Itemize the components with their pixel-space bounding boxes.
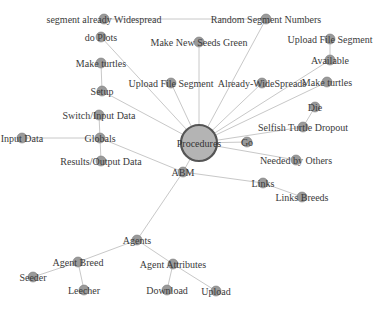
node-label: Upload — [201, 286, 230, 297]
node-label: Seeder — [19, 272, 47, 283]
node-label: Globals — [84, 133, 115, 144]
node-label: Upload File Segment — [288, 34, 373, 45]
node-label: Already-WideSpreads — [218, 78, 307, 89]
node-label: segment already Widespread — [47, 14, 162, 25]
node-label: Die — [308, 102, 323, 113]
node-label: ABM — [172, 167, 195, 178]
node-label: Switch/Input Data — [62, 110, 136, 121]
node-label: Input Data — [1, 133, 44, 144]
node-label: Procedures — [177, 138, 222, 149]
node-label: Agent Breed — [53, 257, 104, 268]
node-label: Links — [252, 178, 275, 189]
node-label: Random Segment Numbers — [211, 14, 322, 25]
node-label: Results/Output Data — [60, 156, 142, 167]
node-label: Make turtles — [76, 58, 126, 69]
edge-make_turtles_r-procedures — [199, 82, 327, 143]
node-label: Available — [311, 55, 350, 66]
network-diagram: Proceduressegment already WidespreadRand… — [0, 0, 387, 315]
edge-do_plots-procedures — [101, 37, 199, 143]
node-label: Links Breeds — [275, 192, 328, 203]
node-label: Make New Seeds Green — [151, 37, 248, 48]
node-label: Setup — [91, 86, 114, 97]
graph-svg: Proceduressegment already WidespreadRand… — [0, 0, 387, 315]
node-label: Make turtles — [302, 77, 352, 88]
node-label: Upload File Segment — [129, 78, 214, 89]
node-label: Agent Attributes — [140, 259, 206, 270]
node-label: Needed by Others — [260, 155, 332, 166]
node-label: Selfish Turtle Dropout — [258, 122, 348, 133]
node-label: do Plots — [85, 32, 118, 43]
node-label: Go — [241, 137, 253, 148]
edge-abm-agents — [137, 172, 183, 240]
node-label: Download — [146, 285, 188, 296]
node-label: Agents — [123, 235, 151, 246]
node-label: Leecher — [68, 285, 101, 296]
